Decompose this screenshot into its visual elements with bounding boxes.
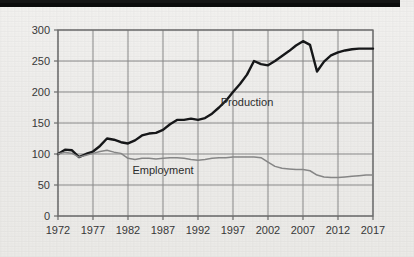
y-tick-label: 100 [32, 148, 50, 160]
data-series-group [58, 41, 373, 177]
series-label-employment: Employment [132, 164, 193, 176]
scan-artifact-band [0, 0, 400, 7]
y-tick-label: 150 [32, 117, 50, 129]
x-tick-label: 1982 [116, 224, 140, 236]
y-tick-label: 50 [38, 179, 50, 191]
x-tick-label: 1992 [186, 224, 210, 236]
series-label-production: Production [221, 96, 274, 108]
y-tick-label: 0 [44, 210, 50, 222]
x-tick-label: 1977 [81, 224, 105, 236]
x-tick-label: 2017 [361, 224, 385, 236]
x-tick-label: 2012 [326, 224, 350, 236]
x-tick-label: 2002 [256, 224, 280, 236]
x-axis-tick-labels: 1972197719821987199219972002200720122017 [46, 224, 385, 236]
x-tick-label: 1997 [221, 224, 245, 236]
series-line-production [58, 41, 373, 157]
y-tick-label: 200 [32, 86, 50, 98]
y-axis-tick-labels: 050100150200250300 [32, 24, 50, 222]
y-tick-label: 300 [32, 24, 50, 36]
y-tick-label: 250 [32, 55, 50, 67]
line-chart-figure: 050100150200250300 197219771982198719921… [0, 7, 414, 257]
axis-ticks [54, 30, 373, 220]
series-annotations: ProductionEmployment [132, 96, 273, 176]
chart-canvas: 050100150200250300 197219771982198719921… [0, 7, 414, 257]
x-tick-label: 2007 [291, 224, 315, 236]
x-tick-label: 1972 [46, 224, 70, 236]
grid-group [58, 30, 373, 216]
x-tick-label: 1987 [151, 224, 175, 236]
